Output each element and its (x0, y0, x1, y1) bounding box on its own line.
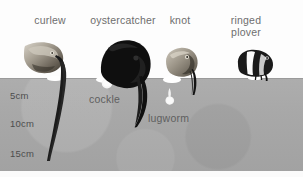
wader-feeding-depth-figure: 5cm 10cm 15cm curlew oystercatcher knot … (0, 0, 303, 177)
sand-bottom-strip (0, 171, 303, 177)
prey-label-lugworm: lugworm (148, 112, 189, 124)
bird-label-oystercatcher: oystercatcher (85, 14, 161, 26)
scan-artifact (232, 1, 272, 9)
bird-label-ringed-plover-line2: plover (215, 26, 277, 38)
bird-label-ringed-plover-line1: ringed (215, 14, 277, 26)
bird-label-knot: knot (156, 14, 204, 26)
ringed-plover-silhouette-icon (234, 48, 280, 84)
oystercatcher-silhouette-icon (96, 38, 154, 140)
curlew-silhouette-icon (22, 40, 82, 165)
knot-silhouette-icon (163, 47, 205, 102)
bird-label-curlew: curlew (15, 14, 85, 26)
